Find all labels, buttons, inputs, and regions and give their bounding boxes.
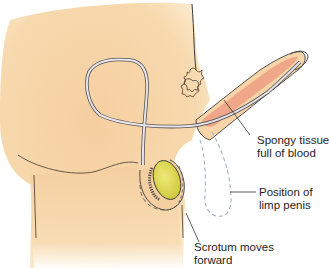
label-line: Scrotum moves	[194, 241, 274, 254]
label-line: Position of	[259, 186, 313, 199]
label-spongy-tissue: Spongy tissue full of blood	[257, 134, 329, 160]
label-line: full of blood	[257, 147, 329, 160]
label-line: forward	[194, 254, 274, 267]
limp-penis-outline	[200, 132, 231, 216]
leader-scrotum	[186, 213, 199, 242]
label-line: limp penis	[259, 199, 313, 212]
spongy-tissue	[202, 57, 298, 127]
label-limp-position: Position of limp penis	[259, 186, 313, 212]
label-scrotum: Scrotum moves forward	[194, 241, 274, 267]
label-line: Spongy tissue	[257, 134, 329, 147]
